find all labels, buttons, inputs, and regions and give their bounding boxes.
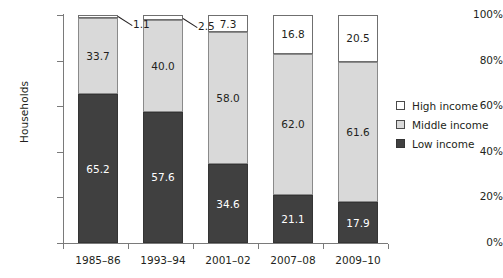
y-tick-label: 80% [449, 54, 503, 66]
legend-item-high[interactable]: High income [396, 96, 488, 115]
bar-2007–08: 21.162.016.8 [273, 15, 313, 243]
x-tick-mark [258, 244, 259, 249]
y-tick-mark [57, 15, 63, 16]
x-tick-mark [323, 244, 324, 249]
y-tick-label: 20% [449, 190, 503, 202]
bar-value-label: 62.0 [273, 119, 313, 130]
legend-item-label: Low income [412, 138, 474, 150]
legend-item-label: Middle income [412, 119, 488, 131]
y-tick-mark [57, 61, 63, 62]
bar-value-label: 33.7 [78, 51, 118, 62]
x-axis-line [63, 243, 388, 244]
legend-item-middle[interactable]: Middle income [396, 115, 488, 134]
callout-leader-line [183, 18, 198, 28]
bar-value-label: 61.6 [338, 127, 378, 138]
legend-item-low[interactable]: Low income [396, 134, 488, 153]
x-tick-label: 1993–94 [131, 254, 195, 266]
legend-item-label: High income [412, 100, 478, 112]
bar-1985–86: 65.233.7 [78, 15, 118, 243]
bar-segment-high [78, 15, 118, 18]
callout-value-label: 2.5 [198, 20, 215, 32]
bar-1993–94: 57.640.0 [143, 15, 183, 243]
bar-value-label: 40.0 [143, 61, 183, 72]
x-tick-label: 1985–86 [66, 254, 130, 266]
bar-value-label: 17.9 [338, 218, 378, 229]
legend-swatch-icon [396, 101, 405, 110]
x-tick-mark [63, 244, 64, 249]
callout-leader-line [118, 16, 133, 26]
chart-legend: High incomeMiddle incomeLow income [396, 96, 488, 153]
bar-value-label: 16.8 [273, 29, 313, 40]
x-tick-mark [128, 244, 129, 249]
bar-value-label: 65.2 [78, 164, 118, 175]
legend-swatch-icon [396, 120, 405, 129]
y-tick-label: 0% [449, 236, 503, 248]
stacked-bar-chart: Households 100%80%60%40%20%0% 1985–86199… [0, 0, 503, 278]
bar-value-label: 34.6 [208, 199, 248, 210]
y-axis-title: Households [18, 52, 30, 172]
bar-value-label: 20.5 [338, 33, 378, 44]
bar-value-label: 21.1 [273, 214, 313, 225]
y-tick-mark [57, 197, 63, 198]
bar-value-label: 58.0 [208, 93, 248, 104]
y-tick-mark [57, 106, 63, 107]
bar-value-label: 57.6 [143, 172, 183, 183]
x-tick-mark [388, 244, 389, 249]
x-tick-mark [193, 244, 194, 249]
bar-2009–10: 17.961.620.5 [338, 15, 378, 243]
x-tick-label: 2001–02 [196, 254, 260, 266]
y-tick-label: 100% [449, 8, 503, 20]
y-axis-line [63, 14, 64, 244]
x-tick-label: 2009–10 [326, 254, 390, 266]
y-tick-mark [57, 152, 63, 153]
legend-swatch-icon [396, 139, 405, 148]
bar-2001–02: 34.658.07.3 [208, 15, 248, 243]
x-tick-label: 2007–08 [261, 254, 325, 266]
callout-value-label: 1.1 [133, 18, 150, 30]
